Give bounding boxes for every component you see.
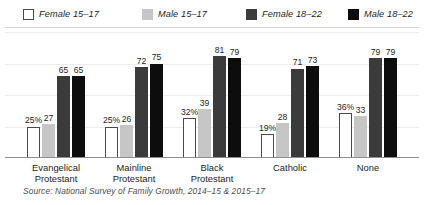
bar-value-label: 19%	[259, 124, 276, 133]
bar[interactable]	[369, 58, 382, 158]
legend-item[interactable]: Male 15–17	[142, 0, 207, 28]
bar-group-bars: 36%337979	[339, 32, 397, 158]
legend-item[interactable]: Male 18–22	[348, 0, 413, 28]
bar-value-label: 25%	[25, 116, 42, 125]
category-label: Mainline Protestant	[93, 162, 175, 184]
bar-item[interactable]: 73	[306, 32, 319, 158]
legend-label: Female 18–22	[262, 9, 322, 19]
category-label: Evangelical Protestant	[15, 162, 97, 184]
bar-value-label: 79	[386, 48, 396, 57]
bar-item[interactable]: 36%	[339, 32, 352, 158]
bar-value-label: 28	[278, 113, 288, 122]
bar[interactable]	[120, 125, 133, 158]
category-label: Black Protestant	[171, 162, 253, 184]
bar[interactable]	[135, 67, 148, 158]
bar[interactable]	[291, 69, 304, 158]
bar-group-bars: 19%287173	[261, 32, 319, 158]
legend-swatch-icon	[23, 9, 34, 20]
bar-value-label: 71	[293, 58, 303, 67]
bar-value-label: 27	[44, 114, 54, 123]
legend-divider	[5, 27, 419, 28]
bar-item[interactable]: 25%	[27, 32, 40, 158]
legend-swatch-icon	[348, 9, 359, 20]
category-label: Catholic	[249, 162, 331, 173]
legend-swatch-icon	[142, 9, 153, 20]
bar-item[interactable]: 27	[42, 32, 55, 158]
bar-item[interactable]: 79	[384, 32, 397, 158]
bar-value-label: 75	[152, 53, 162, 62]
bar-group-bars: 25%267275	[105, 32, 163, 158]
bar-value-label: 26	[122, 115, 132, 124]
bar-item[interactable]: 65	[57, 32, 70, 158]
chart-figure: Female 15–17Male 15–17Female 18–22Male 1…	[0, 0, 424, 205]
bar-item[interactable]: 79	[369, 32, 382, 158]
bar-value-label: 81	[215, 46, 225, 55]
bar[interactable]	[183, 118, 196, 158]
bar-item[interactable]: 32%	[183, 32, 196, 158]
bar[interactable]	[354, 116, 367, 158]
bar-item[interactable]: 79	[228, 32, 241, 158]
bar-value-label: 33	[356, 106, 366, 115]
x-axis-baseline	[5, 157, 419, 158]
bar[interactable]	[198, 109, 211, 158]
bar-value-label: 36%	[337, 103, 354, 112]
bar-item[interactable]: 71	[291, 32, 304, 158]
bar-item[interactable]: 75	[150, 32, 163, 158]
bar[interactable]	[57, 76, 70, 158]
legend-label: Male 15–17	[158, 9, 207, 19]
bar-item[interactable]: 28	[276, 32, 289, 158]
legend-label: Female 15–17	[39, 9, 99, 19]
bar-item[interactable]: 25%	[105, 32, 118, 158]
bar[interactable]	[213, 56, 226, 158]
bar-group-bars: 32%398179	[183, 32, 241, 158]
legend-swatch-icon	[246, 9, 257, 20]
bar-item[interactable]: 19%	[261, 32, 274, 158]
category-label: None	[327, 162, 409, 173]
bar-item[interactable]: 81	[213, 32, 226, 158]
bar-item[interactable]: 65	[72, 32, 85, 158]
bar-item[interactable]: 72	[135, 32, 148, 158]
source-note: Source: National Survey of Family Growth…	[23, 186, 265, 196]
bar[interactable]	[42, 124, 55, 158]
bar-value-label: 79	[371, 48, 381, 57]
bar-value-label: 32%	[181, 108, 198, 117]
bar[interactable]	[384, 58, 397, 158]
legend-item[interactable]: Female 18–22	[246, 0, 322, 28]
bar-item[interactable]: 39	[198, 32, 211, 158]
bar-value-label: 65	[74, 66, 84, 75]
bar[interactable]	[276, 123, 289, 158]
bar-value-label: 65	[59, 66, 69, 75]
bar-item[interactable]: 26	[120, 32, 133, 158]
bar[interactable]	[261, 134, 274, 158]
legend-label: Male 18–22	[364, 9, 413, 19]
bar[interactable]	[105, 127, 118, 159]
bar[interactable]	[228, 58, 241, 158]
bar-value-label: 79	[230, 48, 240, 57]
bar-value-label: 72	[137, 57, 147, 66]
legend-item[interactable]: Female 15–17	[23, 0, 99, 28]
bar[interactable]	[150, 64, 163, 159]
bar[interactable]	[339, 113, 352, 158]
bar-value-label: 25%	[103, 116, 120, 125]
bar-value-label: 73	[308, 56, 318, 65]
bar[interactable]	[306, 66, 319, 158]
bar[interactable]	[27, 127, 40, 159]
bar[interactable]	[72, 76, 85, 158]
bar-item[interactable]: 33	[354, 32, 367, 158]
bar-group-bars: 25%276565	[27, 32, 85, 158]
chart-legend: Female 15–17Male 15–17Female 18–22Male 1…	[0, 0, 424, 28]
plot-area: 25%27656525%26727532%39817919%28717336%3…	[5, 32, 419, 158]
bar-value-label: 39	[200, 99, 210, 108]
